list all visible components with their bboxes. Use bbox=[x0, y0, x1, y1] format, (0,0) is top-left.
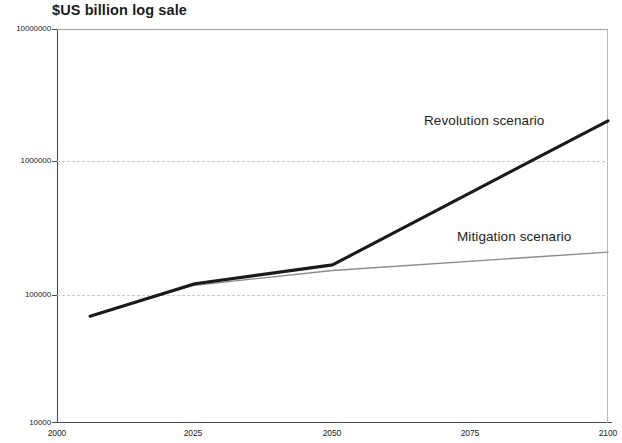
series-line-mitigation bbox=[90, 252, 608, 316]
series-line-revolution bbox=[90, 121, 608, 316]
